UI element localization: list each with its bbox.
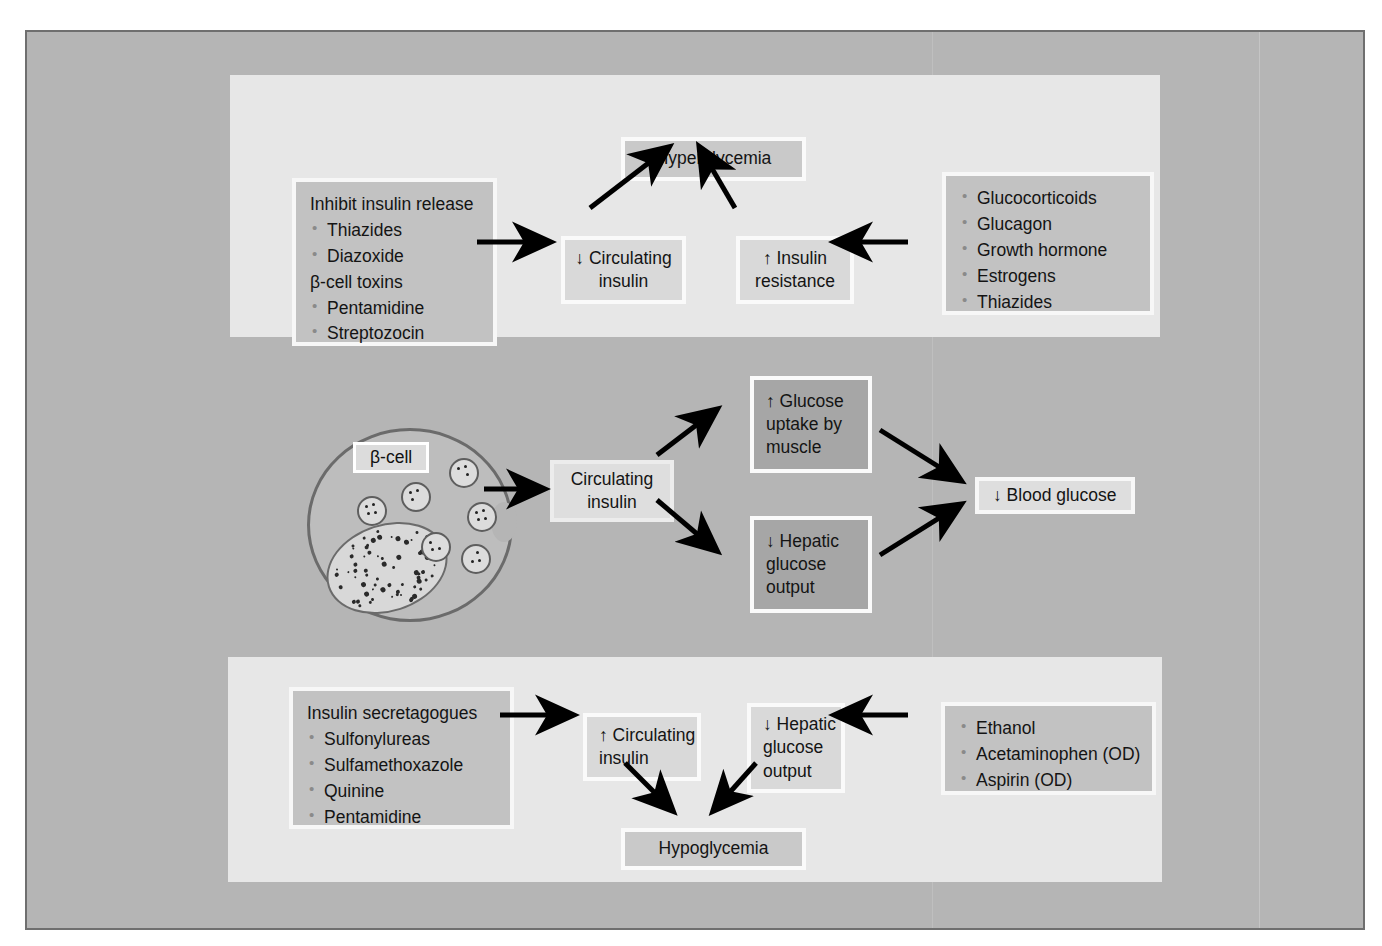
decreased-hepatic-glucose-output-box: ↓ Hepatic glucose output [747,703,845,793]
beta-cell-illustration: β-cell [303,424,515,622]
insulin-granule [421,532,451,562]
node-line: glucose [763,736,829,759]
hyperglycemia-panel: Inhibit insulin release Thiazides Diazox… [230,75,1160,337]
list-item: Growth hormone [960,238,1136,264]
list-item: Streptozocin [310,321,479,347]
inhibit-heading: Inhibit insulin release [310,192,479,218]
node-line: insulin [599,747,685,770]
list-item: Thiazides [310,218,479,244]
inhibit-list-b: Pentamidine Streptozocin [310,296,479,348]
insulin-granule [357,496,387,526]
list-item: Sulfonylureas [307,727,496,753]
node-line: resistance [755,270,835,293]
node-line: Circulating [571,468,654,491]
node-line: glucose [766,553,856,576]
insulin-granule-releasing [467,502,497,532]
hyperglycemia-outcome-box: Hyperglycemia [621,137,806,181]
decreased-circulating-insulin-box: ↓ Circulating insulin [561,236,686,304]
list-item: Aspirin (OD) [959,768,1138,794]
node-line: output [766,576,856,599]
hypoglycemia-outcome-box: Hypoglycemia [621,828,806,870]
node-line: uptake by [766,413,856,436]
hepatic-glucose-output-box: ↓ Hepatic glucose output [750,516,872,613]
node-line: Hyperglycemia [656,147,772,170]
list-item: Diazoxide [310,244,479,270]
glucose-uptake-box: ↑ Glucose uptake by muscle [750,376,872,473]
hypoglycemia-drugs-box: Ethanol Acetaminophen (OD) Aspirin (OD) [941,702,1156,795]
insulin-granule [401,482,431,512]
hypoglycemia-panel: Insulin secretagogues Sulfonylureas Sulf… [228,657,1162,882]
node-line: output [763,760,829,783]
scan-line [1259,32,1260,928]
circulating-insulin-box: Circulating insulin [550,460,674,522]
node-line: Hypoglycemia [659,837,769,860]
increased-insulin-resistance-box: ↑ Insulin resistance [736,236,854,304]
node-line: insulin [599,270,649,293]
node-line: ↓ Hepatic [766,530,856,553]
list-item: Pentamidine [310,296,479,322]
list-item: Glucocorticoids [960,186,1136,212]
insulin-secretagogues-box: Insulin secretagogues Sulfonylureas Sulf… [289,687,514,829]
inhibit-insulin-release-box: Inhibit insulin release Thiazides Diazox… [292,178,497,346]
list-item: Quinine [307,779,496,805]
insulin-resistance-drugs-box: Glucocorticoids Glucagon Growth hormone … [942,172,1154,315]
list-item: Pentamidine [307,805,496,831]
node-line: insulin [587,491,637,514]
hypoglycemia-drug-list: Ethanol Acetaminophen (OD) Aspirin (OD) [959,716,1138,794]
beta-cell-label: β-cell [353,442,429,473]
beta-cell-toxins-heading: β-cell toxins [310,270,479,296]
list-item: Acetaminophen (OD) [959,742,1138,768]
list-item: Ethanol [959,716,1138,742]
list-item: Thiazides [960,290,1136,316]
blood-glucose-box: ↓ Blood glucose [975,477,1135,514]
insulin-granule [461,544,491,574]
node-line: ↑ Circulating [599,724,685,747]
figure-frame: Inhibit insulin release Thiazides Diazox… [25,30,1365,930]
node-line: ↓ Hepatic [763,713,829,736]
resistance-drug-list: Glucocorticoids Glucagon Growth hormone … [960,186,1136,315]
list-item: Estrogens [960,264,1136,290]
node-line: ↑ Insulin [763,247,827,270]
list-item: Sulfamethoxazole [307,753,496,779]
list-item: Glucagon [960,212,1136,238]
node-line: ↓ Blood glucose [993,484,1131,507]
node-line: ↓ Circulating [575,247,671,270]
secretagogue-heading: Insulin secretagogues [307,701,496,727]
figure-root: Inhibit insulin release Thiazides Diazox… [0,0,1382,946]
secretagogue-list: Sulfonylureas Sulfamethoxazole Quinine P… [307,727,496,831]
node-line: muscle [766,436,856,459]
insulin-granule [449,458,479,488]
increased-circulating-insulin-box: ↑ Circulating insulin [583,713,701,781]
inhibit-list-a: Thiazides Diazoxide [310,218,479,270]
node-line: ↑ Glucose [766,390,856,413]
